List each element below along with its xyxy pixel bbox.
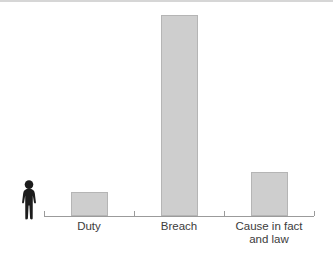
person-icon [18, 180, 40, 220]
x-axis-line [44, 216, 314, 217]
bar-chart-figure: DutyBreachCause in fact and law [0, 0, 333, 260]
bar-duty [71, 192, 108, 216]
axis-tick [44, 211, 45, 216]
bar-chart: DutyBreachCause in fact and law [0, 0, 333, 260]
axis-tick [224, 211, 225, 216]
axis-tick [314, 211, 315, 216]
category-label: Breach [134, 220, 224, 233]
category-label: Duty [44, 220, 134, 233]
axis-tick [134, 211, 135, 216]
bar-cause [251, 172, 288, 216]
bar-breach [161, 15, 198, 216]
category-label: Cause in fact and law [224, 220, 314, 246]
